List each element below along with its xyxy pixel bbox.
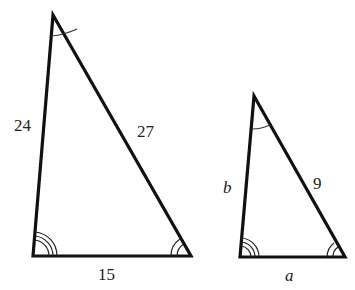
large-triangle: 24 27 15 — [14, 15, 191, 284]
similar-triangles-diagram: 24 27 15 b 9 a — [0, 0, 355, 290]
small-triangle: b 9 a — [223, 96, 345, 285]
small-side-right-label: 9 — [313, 174, 322, 193]
large-side-bottom-label: 15 — [98, 265, 115, 284]
small-side-left-label: b — [223, 178, 232, 197]
small-bottom-right-angle-mark — [327, 243, 338, 257]
large-side-left-label: 24 — [14, 116, 32, 135]
small-apex-angle-mark — [253, 125, 270, 129]
large-bottom-left-angle-mark — [34, 232, 57, 256]
large-side-right-label: 27 — [137, 122, 155, 141]
small-side-bottom-label: a — [285, 266, 294, 285]
small-bottom-left-angle-mark — [241, 238, 259, 257]
